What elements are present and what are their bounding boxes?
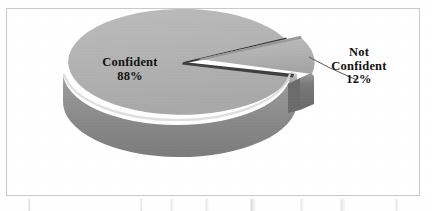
pie-label-confident-name: Confident [72,56,188,70]
pie-label-confident: Confident 88% [72,56,188,83]
pie-label-not-confident-percent: 12% [300,73,418,87]
pie-label-not-confident-name-line2: Confident [300,60,418,74]
pie-label-confident-percent: 88% [72,70,188,84]
pie-label-not-confident: Not Confident 12% [300,46,418,87]
pie-label-not-confident-name-line1: Not [300,46,418,60]
pie-chart-figure: Confident 88% Not Confident 12% [0,0,432,211]
pie-chart-graphic [0,0,432,211]
